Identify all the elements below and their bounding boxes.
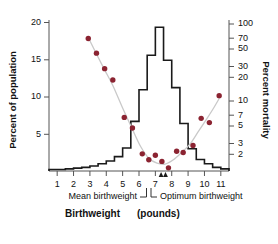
mortality-data-point (174, 149, 179, 154)
mortality-scatter-points (86, 36, 222, 171)
x-axis-title-units: (pounds) (137, 208, 180, 219)
right-tick-label-3: 3 (238, 138, 243, 148)
mortality-data-point (207, 120, 212, 125)
right-tick-label-10: 10 (238, 95, 248, 105)
right-tick-label-2: 2 (238, 149, 243, 159)
right-tick-label-5: 5 (238, 120, 243, 130)
optimum-birthweight-label: Optimum birthweight (160, 191, 243, 201)
mortality-data-point (180, 150, 185, 155)
x-tick-label-10: 10 (199, 179, 209, 189)
mortality-data-point (130, 125, 135, 130)
mortality-data-point (94, 50, 99, 55)
mortality-data-point (110, 77, 115, 82)
left-tick-label-10: 10 (31, 91, 41, 101)
right-tick-label-7: 7 (238, 110, 243, 120)
left-tick-label-5: 5 (36, 129, 41, 139)
right-tick-label-100: 100 (238, 18, 253, 28)
right-tick-label-70: 70 (238, 33, 248, 43)
x-tick-label-3: 3 (87, 179, 92, 189)
x-tick-label-7: 7 (153, 179, 158, 189)
annotation-arrow-markers (159, 172, 168, 177)
left-tick-label-15: 15 (31, 54, 41, 64)
chart-figure: Percent of population Percent mortality … (0, 0, 278, 244)
right-axis-ticks: 100 70 50 30 20 10 7 5 3 2 (229, 18, 253, 158)
x-tick-label-8: 8 (169, 179, 174, 189)
mortality-trend-line (88, 38, 221, 165)
x-tick-label-11: 11 (216, 179, 225, 189)
mortality-data-point (159, 159, 164, 164)
birthweight-mortality-chart: Percent of population Percent mortality … (0, 0, 278, 244)
right-tick-label-30: 30 (238, 61, 248, 71)
mortality-data-point (102, 66, 107, 71)
mortality-data-point (122, 115, 127, 120)
mortality-data-point (216, 93, 221, 98)
mortality-data-point (140, 151, 145, 156)
x-tick-label-5: 5 (120, 179, 125, 189)
x-tick-label-4: 4 (104, 179, 109, 189)
optimum-birthweight-arrow-icon (163, 172, 168, 177)
x-tick-label-1: 1 (55, 179, 60, 189)
left-tick-label-20: 20 (31, 17, 41, 27)
mortality-data-point (86, 36, 91, 41)
right-tick-label-20: 20 (238, 72, 248, 82)
left-axis-ticks: 20 15 10 5 (31, 17, 49, 139)
left-axis-title: Percent of population (7, 51, 18, 149)
x-axis-ticks: 1234567891011 (55, 171, 226, 189)
x-tick-label-6: 6 (136, 179, 141, 189)
right-axis-title: Percent mortality (261, 61, 272, 139)
population-histogram (49, 27, 229, 171)
mortality-data-point (166, 165, 171, 170)
x-axis-title-main: Birthweight (65, 208, 121, 219)
x-tick-label-2: 2 (71, 179, 76, 189)
mean-birthweight-arrow-icon (159, 172, 164, 177)
mean-birthweight-label: Mean birthweight (68, 191, 137, 201)
mortality-data-point (146, 157, 151, 162)
right-tick-label-50: 50 (238, 43, 248, 53)
mortality-data-point (153, 153, 158, 158)
x-tick-label-9: 9 (186, 179, 191, 189)
mortality-data-point (190, 143, 195, 148)
mortality-data-point (198, 116, 203, 121)
